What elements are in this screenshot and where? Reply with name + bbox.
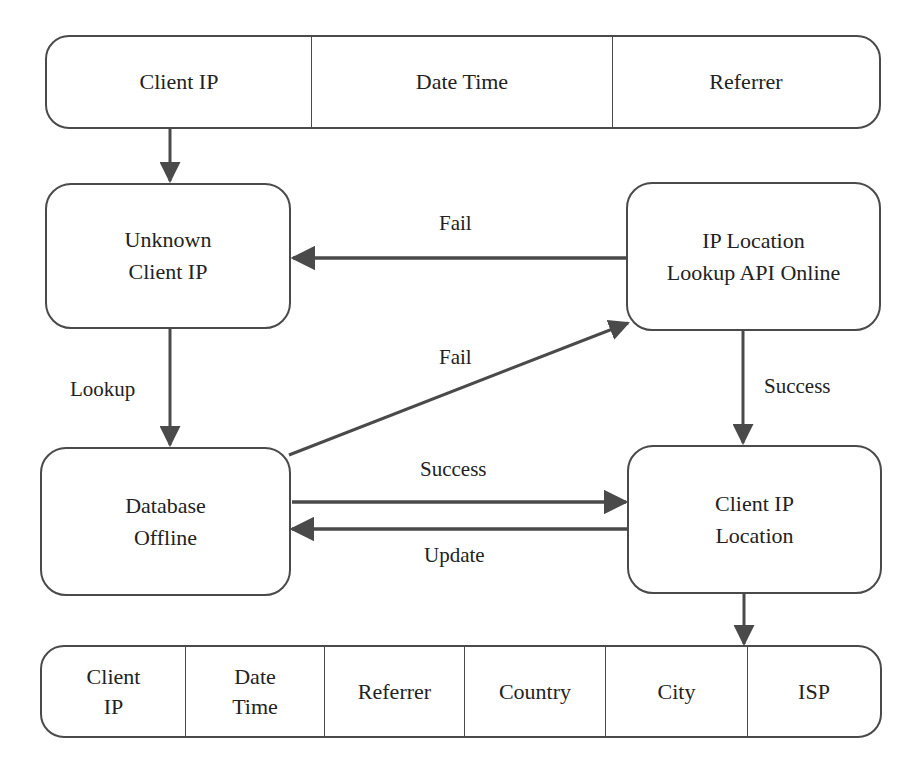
node-ip-location-api: IP LocationLookup API Online <box>626 182 881 331</box>
node-unknown-client-ip: UnknownClient IP <box>45 183 291 329</box>
output-field-country: Country <box>464 647 605 736</box>
input-record: Client IP Date Time Referrer <box>45 35 881 129</box>
output-field-client-ip: ClientIP <box>42 647 185 736</box>
output-field-referrer: Referrer <box>324 647 464 736</box>
arrow-db-to-api <box>289 323 628 455</box>
input-field-client-ip: Client IP <box>47 37 311 127</box>
output-record: ClientIP DateTime Referrer Country City … <box>40 645 882 738</box>
input-field-referrer: Referrer <box>612 37 879 127</box>
edge-label-api-to-location: Success <box>764 374 831 399</box>
node-database-offline: DatabaseOffline <box>40 447 291 596</box>
output-field-isp: ISP <box>747 647 880 736</box>
edge-label-db-to-api: Fail <box>439 345 472 370</box>
output-field-city: City <box>605 647 747 736</box>
output-field-date-time: DateTime <box>185 647 324 736</box>
edge-label-db-to-location: Success <box>420 457 487 482</box>
edge-label-location-to-db: Update <box>424 543 485 568</box>
edge-label-unknown-to-db: Lookup <box>70 377 135 402</box>
input-field-date-time: Date Time <box>311 37 612 127</box>
node-client-ip-location: Client IPLocation <box>627 445 882 594</box>
edge-label-api-to-unknown: Fail <box>439 211 472 236</box>
